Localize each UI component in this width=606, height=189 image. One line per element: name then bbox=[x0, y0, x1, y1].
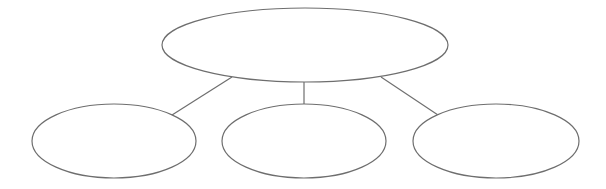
connector-left bbox=[172, 77, 232, 115]
hierarchy-diagram bbox=[0, 0, 606, 189]
root-node bbox=[162, 8, 448, 82]
child-node-right bbox=[413, 104, 579, 178]
connector-right bbox=[381, 77, 438, 115]
child-node-left bbox=[32, 104, 196, 178]
child-node-middle bbox=[222, 104, 386, 178]
